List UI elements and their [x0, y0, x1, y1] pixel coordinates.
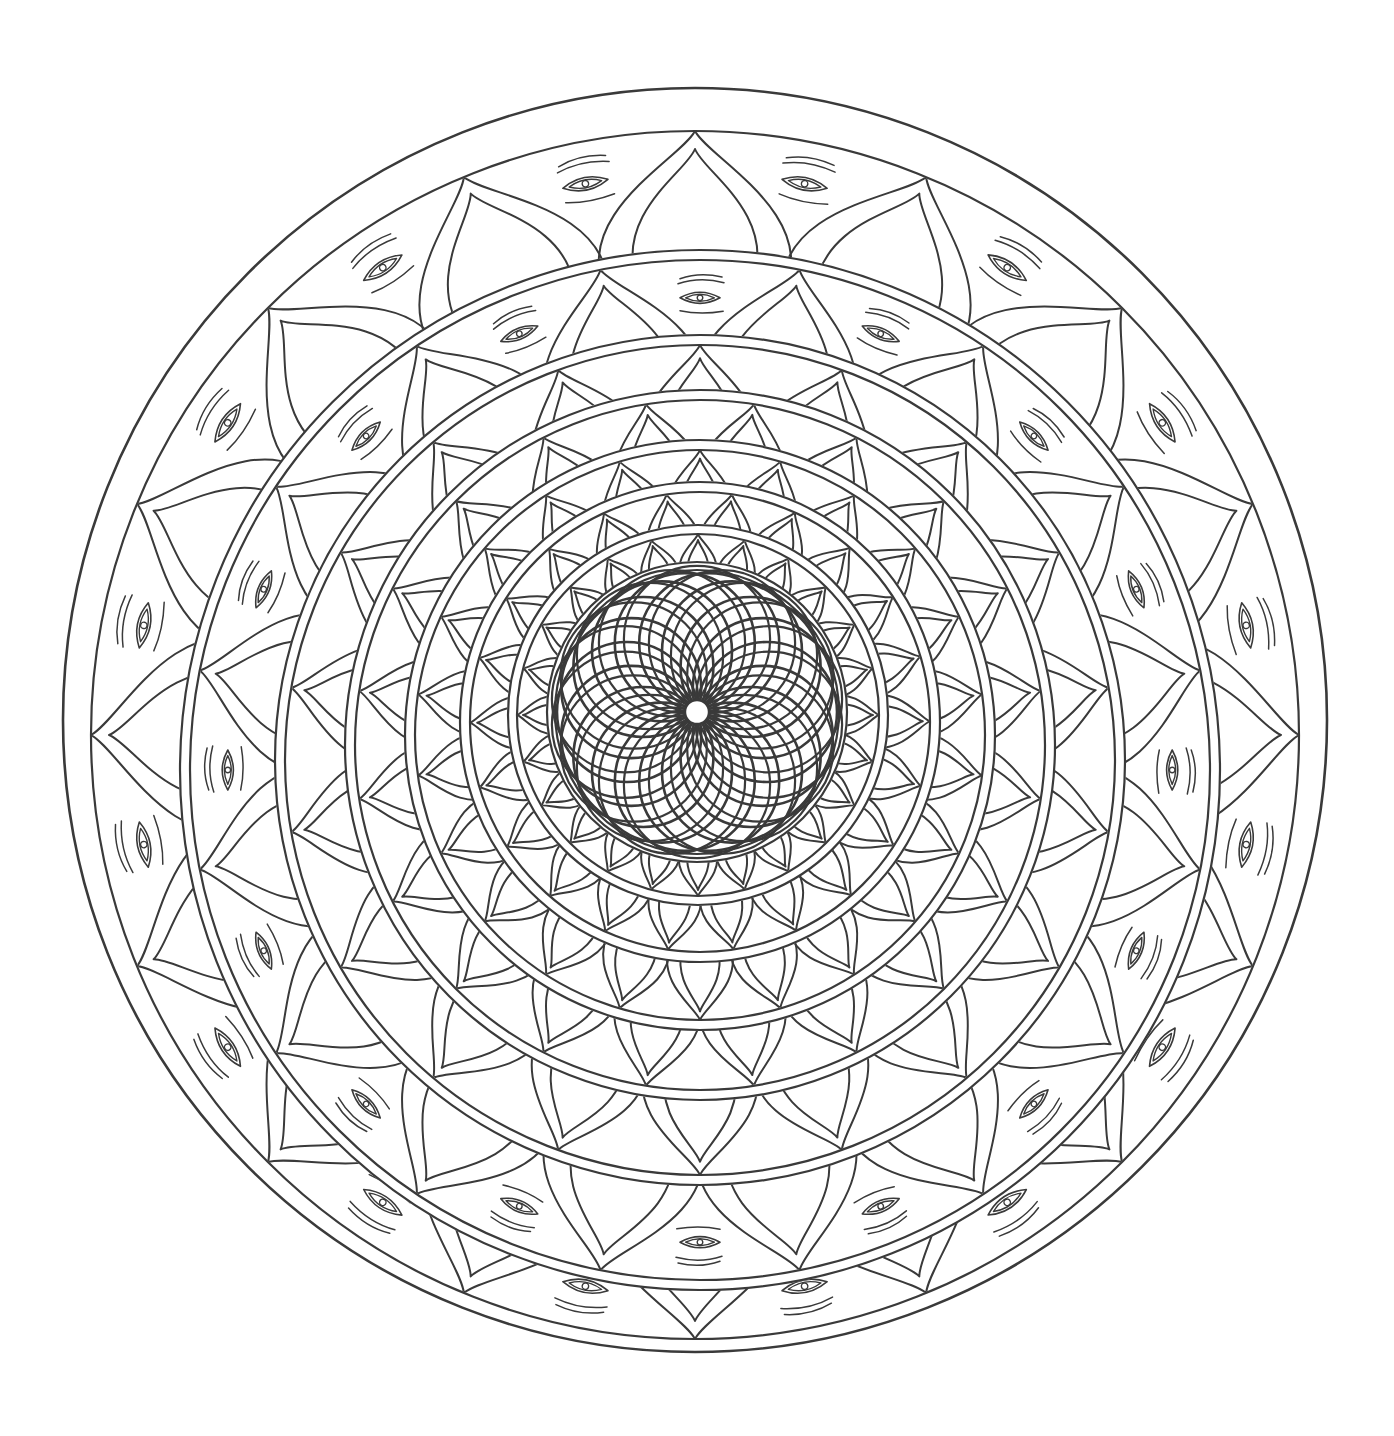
center-rosette: [552, 566, 842, 858]
lotus-petal-inner: [869, 1056, 978, 1180]
eye-motif: [234, 558, 287, 615]
lotus-petal-inner: [743, 936, 785, 1000]
eye-motif: [1134, 387, 1200, 456]
mandala-coloring-page: [0, 0, 1394, 1436]
lotus-petal-inner: [289, 939, 413, 1048]
lotus-petal-inner: [726, 1130, 830, 1254]
lotus-petal-outer: [1046, 613, 1200, 772]
lotus-petal-inner: [664, 1067, 736, 1162]
lotus-petal-inner: [513, 803, 564, 843]
lotus-petal-inner: [910, 683, 974, 723]
eye-motif: [333, 1076, 393, 1136]
ring-band-2: [180, 250, 1220, 1290]
lotus-petal-outer: [697, 1116, 856, 1270]
lotus-petal-inner: [860, 653, 913, 687]
ring-band-3: [275, 335, 1125, 1185]
eye-motif: [976, 231, 1045, 297]
eye-motif: [855, 304, 912, 357]
lotus-petal-outer: [418, 734, 496, 800]
lotus-petal-outer: [603, 929, 670, 1009]
eye-motif: [112, 814, 166, 874]
eye-motif: [191, 385, 257, 454]
lotus-petal-outer: [904, 734, 982, 800]
eye-motif: [1224, 595, 1278, 655]
lotus-petal-inner: [216, 641, 340, 745]
lotus-petal-outer: [91, 639, 250, 831]
lotus-petal-inner: [402, 591, 482, 651]
lotus-petal-outer: [341, 540, 467, 657]
lotus-petal-outer: [291, 646, 414, 762]
eye-motif: [1006, 1078, 1066, 1138]
eye-motif: [555, 152, 615, 206]
lotus-petal-outer: [419, 177, 608, 359]
eye-motif: [776, 153, 837, 207]
lotus-petal-inner: [422, 1056, 531, 1180]
lotus-petal-outer: [782, 177, 971, 359]
eye-motif: [113, 593, 167, 654]
rosette-hub: [685, 700, 709, 724]
eye-motif: [490, 303, 547, 356]
lotus-petal-inner: [631, 995, 685, 1075]
lotus-petal-inner: [918, 591, 998, 651]
lotus-petal-inner: [664, 358, 736, 453]
mandala-drawing: [0, 0, 1394, 1436]
lotus-petal-inner: [758, 872, 794, 925]
lotus-petal-outer: [946, 986, 1124, 1164]
eye-motif: [345, 1172, 414, 1238]
eye-motif: [1224, 816, 1278, 877]
lotus-petal-outer: [852, 442, 968, 565]
lotus-petal-outer: [642, 1060, 758, 1175]
lotus-petal-outer: [942, 659, 1041, 746]
lotus-petal-outer: [485, 850, 561, 922]
eye-motif: [347, 230, 416, 296]
eye-motif: [853, 1184, 910, 1237]
lotus-petal-inner: [986, 939, 1110, 1048]
lotus-petal-outer: [267, 986, 445, 1164]
lotus-petal-inner: [716, 995, 770, 1075]
eye-motif: [1132, 1016, 1198, 1085]
lotus-petal-outer: [904, 670, 982, 736]
eye-motif: [1113, 925, 1166, 982]
lotus-petal-inner: [1060, 641, 1184, 745]
eye-motif: [1157, 748, 1195, 794]
eye-motif: [205, 746, 243, 792]
lotus-petal-outer: [359, 659, 458, 746]
lotus-petal-inner: [449, 807, 513, 852]
eye-motif: [334, 403, 394, 463]
petal-band: [200, 270, 1200, 1270]
lotus-petal-outer: [942, 743, 1041, 830]
lotus-petal-inner: [710, 890, 742, 943]
lotus-petal-inner: [997, 667, 1096, 740]
lotus-petal-inner: [659, 890, 691, 943]
lotus-petal-inner: [918, 840, 998, 900]
lotus-petal-inner: [427, 747, 491, 787]
lotus-petal-outer: [359, 743, 458, 830]
lotus-petal-inner: [281, 1015, 415, 1149]
lotus-petal-inner: [773, 1037, 849, 1138]
lotus-petal-inner: [615, 936, 657, 1000]
eye-motif: [233, 923, 286, 980]
eye-motif: [678, 275, 724, 313]
lotus-petal-inner: [109, 672, 239, 797]
petal-rings: [91, 131, 1299, 1339]
lotus-petal-inner: [551, 1037, 627, 1138]
lotus-petal-inner: [551, 382, 627, 483]
lotus-petal-outer: [730, 929, 797, 1009]
eye-motif: [488, 1183, 545, 1236]
lotus-petal-inner: [910, 747, 974, 787]
eye-motif: [1008, 404, 1068, 464]
lotus-petal-inner: [571, 1130, 675, 1254]
lotus-petal-outer: [791, 548, 850, 611]
lotus-petal-outer: [986, 646, 1108, 762]
eye-motif: [1114, 560, 1167, 617]
lotus-petal-inner: [773, 382, 849, 483]
petal-band: [291, 345, 1108, 1175]
lotus-petal-outer: [1072, 822, 1254, 1011]
eye-motif: [676, 1227, 722, 1265]
lotus-petal-outer: [432, 442, 548, 565]
lotus-petal-inner: [304, 667, 403, 740]
lotus-petal-inner: [402, 840, 482, 900]
lotus-petal-outer: [543, 1116, 702, 1270]
lotus-petal-inner: [888, 807, 952, 852]
lotus-petal-outer: [200, 613, 354, 772]
